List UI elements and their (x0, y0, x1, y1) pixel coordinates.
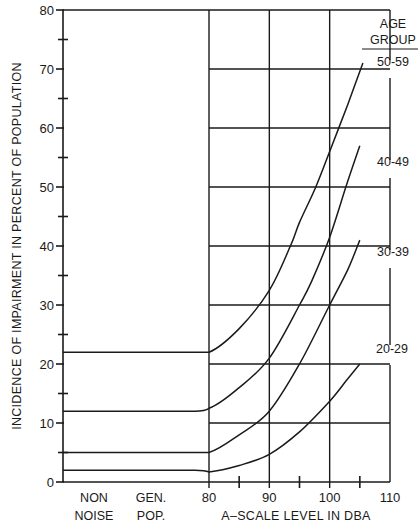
series-label-20-29: 20-29 (376, 342, 408, 356)
hearing-impairment-chart: 01020304050607080809010011050-5940-4930-… (0, 0, 418, 530)
y-tick-label: 10 (40, 416, 54, 431)
x-tick-label: 110 (380, 490, 401, 505)
curve-age-50-59 (63, 63, 363, 352)
axes (56, 10, 390, 488)
y-tick-label: 20 (40, 357, 54, 372)
x-tick-label: 90 (262, 490, 276, 505)
y-tick-label: 30 (40, 298, 54, 313)
y-tick-label: 50 (40, 180, 54, 195)
grid-lines (209, 10, 390, 488)
y-axis-title: INCIDENCE OF IMPAIRMENT IN PERCENT OF PO… (10, 62, 24, 430)
legend-title-group: GROUP (370, 33, 416, 47)
series-curves (63, 63, 363, 472)
curve-age-20-29 (63, 364, 360, 472)
chart-canvas: 01020304050607080809010011050-5940-4930-… (0, 0, 418, 530)
series-label-40-49: 40-49 (377, 155, 409, 169)
y-tick-label: 0 (47, 475, 54, 490)
y-tick-label: 40 (40, 239, 54, 254)
series-label-30-39: 30-39 (377, 245, 409, 259)
y-tick-label: 70 (40, 62, 54, 77)
category-gen-pop-line2: POP. (137, 509, 165, 523)
y-tick-label: 80 (40, 3, 54, 18)
series-label-50-59: 50-59 (377, 55, 409, 69)
x-tick-label: 100 (319, 490, 341, 505)
x-tick-label: 80 (202, 490, 216, 505)
category-non-noise-line1: NON (80, 491, 108, 505)
curve-age-40-49 (63, 146, 360, 412)
y-tick-label: 60 (40, 121, 54, 136)
x-axis-title: A–SCALE LEVEL IN DBA (221, 509, 371, 523)
category-non-noise-line2: NOISE (75, 509, 114, 523)
legend-title-age: AGE (380, 17, 406, 31)
category-gen-pop-line1: GEN. (136, 491, 167, 505)
